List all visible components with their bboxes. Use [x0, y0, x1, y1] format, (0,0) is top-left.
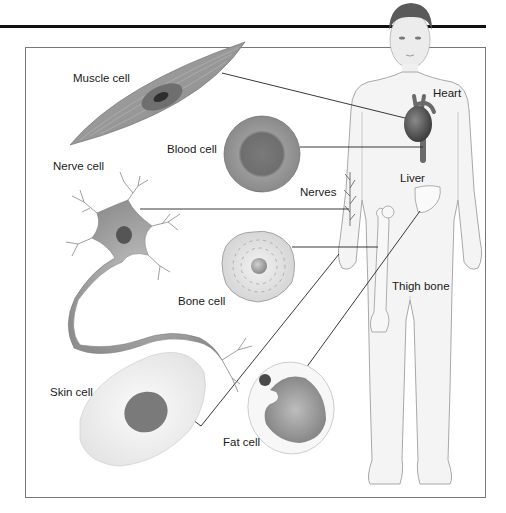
- label-thigh-bone: Thigh bone: [392, 281, 450, 293]
- cell-diagram: Muscle cell Blood cell Nerve cell Bone c…: [0, 0, 506, 513]
- label-blood-cell: Blood cell: [167, 144, 217, 156]
- label-muscle-cell: Muscle cell: [73, 73, 130, 85]
- label-heart: Heart: [433, 88, 461, 100]
- blood-cell: [224, 116, 300, 192]
- label-fat-cell: Fat cell: [223, 437, 260, 449]
- label-nerve-cell: Nerve cell: [53, 161, 104, 173]
- label-skin-cell: Skin cell: [50, 387, 93, 399]
- label-nerves: Nerves: [300, 187, 336, 199]
- label-liver: Liver: [400, 173, 425, 185]
- label-bone-cell: Bone cell: [178, 296, 225, 308]
- bone-cell: [222, 231, 295, 302]
